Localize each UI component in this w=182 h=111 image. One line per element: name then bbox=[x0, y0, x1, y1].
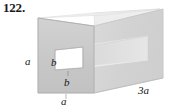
dimension-label-a-left: a bbox=[25, 56, 31, 67]
dimension-label-b-lower: b bbox=[64, 77, 70, 88]
dimension-label-a-bottom: a bbox=[61, 96, 67, 107]
dimension-label-3a: 3a bbox=[138, 85, 149, 96]
dimension-label-b-upper: b bbox=[51, 57, 57, 68]
figure-page: 122. bbox=[0, 0, 182, 111]
hole-opening-outline bbox=[55, 47, 83, 70]
